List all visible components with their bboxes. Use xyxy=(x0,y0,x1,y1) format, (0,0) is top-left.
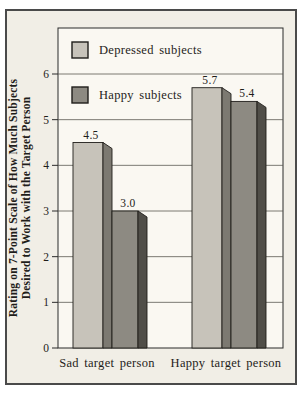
legend-label-happy: Happy subjects xyxy=(99,88,182,102)
bar-value-label: 5.4 xyxy=(239,87,254,99)
y-axis-title-line2: Desired to Work with the Target Person xyxy=(20,96,33,299)
y-tick-label: 1 xyxy=(43,296,49,308)
bar-value-label: 3.0 xyxy=(120,197,135,209)
x-category-label: Happy target person xyxy=(171,356,282,370)
y-tick-label: 6 xyxy=(43,68,49,80)
y-tick-label: 0 xyxy=(43,342,49,354)
x-category-label: Sad target person xyxy=(59,356,155,370)
bar-happy-sad-target xyxy=(112,211,138,348)
y-tick-label: 3 xyxy=(43,205,49,217)
legend-swatch-happy xyxy=(72,87,88,103)
bar-depressed-sad-target xyxy=(73,143,103,349)
legend-label-depressed: Depressed subjects xyxy=(99,43,202,57)
y-tick-label: 4 xyxy=(43,159,49,171)
y-tick-label: 5 xyxy=(43,114,49,126)
bar-happy-happy-target xyxy=(231,101,257,348)
bar-side-shade xyxy=(103,143,112,349)
bar-depressed-happy-target xyxy=(192,88,222,348)
bar-side-shade xyxy=(257,101,266,348)
legend-swatch-depressed xyxy=(72,42,88,58)
bar-side-shade xyxy=(138,211,147,348)
bar-value-label: 4.5 xyxy=(83,129,98,141)
y-axis-title-line1: Rating on 7-Point Scale of How Much Subj… xyxy=(7,78,20,317)
figure: 0123456Depressed subjectsHappy subjects4… xyxy=(5,9,297,385)
bar-chart: 0123456Depressed subjectsHappy subjects4… xyxy=(5,9,297,385)
bar-value-label: 5.7 xyxy=(202,74,217,86)
bar-side-shade xyxy=(222,88,231,348)
y-tick-label: 2 xyxy=(43,251,49,263)
